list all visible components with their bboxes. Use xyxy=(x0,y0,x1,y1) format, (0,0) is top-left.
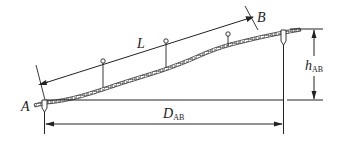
label-point-b: B xyxy=(257,10,266,25)
slope-length-dimension xyxy=(36,6,258,100)
label-slope-length: L xyxy=(136,36,145,51)
range-pole-1-icon xyxy=(101,59,105,87)
stake-b-icon xyxy=(281,30,286,134)
label-point-a: A xyxy=(20,99,30,114)
range-pole-2-icon xyxy=(164,39,168,68)
stake-a-icon xyxy=(42,100,47,134)
horizontal-distance-dimension xyxy=(45,122,283,127)
label-horizontal-distance: DAB xyxy=(162,106,184,122)
slope-distance-diagram: A B L DAB hAB xyxy=(0,0,342,148)
